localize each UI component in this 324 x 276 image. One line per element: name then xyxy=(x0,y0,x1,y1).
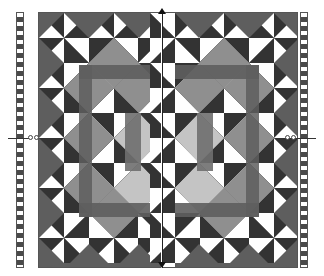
arrow-up-icon[interactable] xyxy=(158,8,166,14)
left-handle-1[interactable] xyxy=(28,135,33,140)
left-handle-2[interactable] xyxy=(34,135,39,140)
right-handle-2[interactable] xyxy=(291,135,296,140)
left-guide-line xyxy=(8,138,30,139)
arrow-down-icon[interactable] xyxy=(158,262,166,268)
quilt-pattern xyxy=(39,13,298,268)
right-handle-1[interactable] xyxy=(285,135,290,140)
left-ruler-strip[interactable] xyxy=(16,12,24,268)
right-ruler-strip[interactable] xyxy=(300,12,308,268)
mirror-axis-line[interactable] xyxy=(162,10,163,268)
quilt-canvas[interactable] xyxy=(38,12,298,268)
